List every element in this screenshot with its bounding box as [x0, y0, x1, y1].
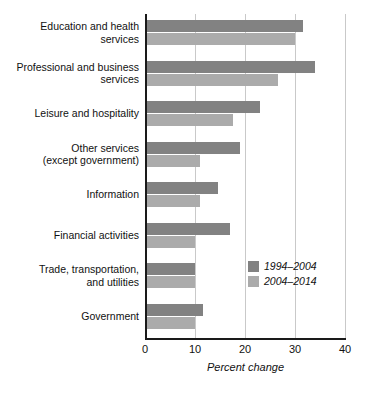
bar	[145, 20, 303, 32]
bar	[145, 155, 200, 167]
category-label: Professional and business services	[0, 61, 139, 86]
bar	[145, 61, 315, 73]
bar	[145, 263, 195, 275]
bar	[145, 236, 195, 248]
bar	[145, 74, 278, 86]
bar	[145, 114, 233, 126]
category-label: Trade, transportation, and utilities	[0, 263, 139, 288]
legend: 1994–2004 2004–2014	[248, 260, 317, 290]
bar-group	[145, 304, 345, 330]
x-tick-label: 10	[189, 343, 201, 355]
x-axis-title: Percent change	[145, 361, 346, 373]
x-axis-line	[145, 338, 346, 340]
category-label: Financial activities	[0, 229, 139, 242]
legend-label: 1994–2004	[264, 260, 317, 272]
category-label: Government	[0, 310, 139, 323]
bar	[145, 304, 203, 316]
bar-group	[145, 182, 345, 208]
category-label: Leisure and hospitality	[0, 107, 139, 120]
category-label: Education and health services	[0, 20, 139, 45]
legend-label: 2004–2014	[264, 275, 317, 287]
legend-item-2004-2014: 2004–2014	[248, 275, 317, 287]
bar-chart: Education and health servicesProfessiona…	[0, 0, 365, 396]
bar-group	[145, 20, 345, 46]
legend-swatch-icon	[248, 261, 259, 272]
legend-item-1994-2004: 1994–2004	[248, 260, 317, 272]
bar	[145, 223, 230, 235]
bar	[145, 101, 260, 113]
bar	[145, 317, 195, 329]
bar-group	[145, 223, 345, 249]
x-tick-label: 0	[142, 343, 148, 355]
legend-swatch-icon	[248, 276, 259, 287]
bar	[145, 195, 200, 207]
bar	[145, 276, 195, 288]
bar	[145, 33, 295, 45]
category-label: Information	[0, 188, 139, 201]
bar	[145, 182, 218, 194]
bar	[145, 142, 240, 154]
bar-group	[145, 142, 345, 168]
x-tick-label: 30	[289, 343, 301, 355]
gridline	[345, 14, 346, 339]
bar-group	[145, 101, 345, 127]
y-axis-line	[145, 14, 147, 340]
category-label: Other services (except government)	[0, 142, 139, 167]
bar-group	[145, 61, 345, 87]
x-tick-label: 40	[339, 343, 351, 355]
plot-area	[145, 14, 345, 339]
x-tick-label: 20	[239, 343, 251, 355]
